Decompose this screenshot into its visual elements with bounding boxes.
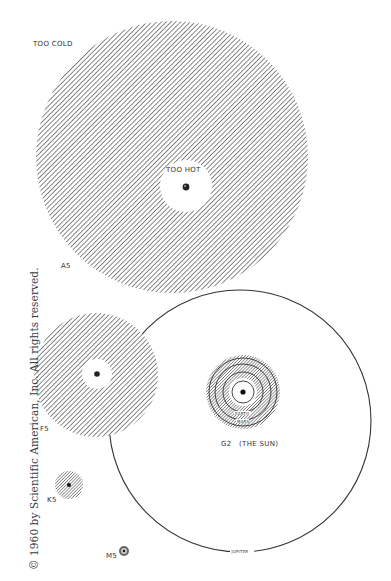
g2-sun-label: G2 (THE SUN) bbox=[221, 440, 278, 448]
jupiter-label: JUPITER bbox=[231, 549, 249, 554]
too-cold-label: TOO COLD bbox=[32, 40, 73, 48]
habitable-zones-diagram: JUPITER EARTH MARS TOO COLD T bbox=[0, 0, 391, 581]
m5-star-system bbox=[119, 546, 129, 556]
k5-star-system bbox=[55, 471, 83, 499]
m5-label: M5 bbox=[106, 552, 117, 560]
mars-label: MARS bbox=[237, 419, 250, 424]
m5-star-icon bbox=[123, 550, 125, 552]
a5-label: A5 bbox=[61, 262, 71, 270]
a5-star-icon bbox=[183, 184, 190, 191]
f5-label: F5 bbox=[40, 425, 49, 433]
earth-label: EARTH bbox=[235, 411, 249, 416]
k5-label: K5 bbox=[47, 496, 57, 504]
a5-habitable-zone bbox=[36, 21, 308, 293]
f5-star-icon bbox=[94, 371, 100, 377]
f5-star-system bbox=[34, 313, 158, 437]
k5-star-icon bbox=[67, 483, 71, 487]
sun-star-icon bbox=[240, 389, 245, 394]
too-hot-label: TOO HOT bbox=[165, 166, 201, 174]
copyright-notice: © 1960 by Scientific American, Inc. All … bbox=[28, 267, 40, 570]
a5-star-system bbox=[36, 21, 308, 293]
g2-sun-system: EARTH MARS bbox=[206, 355, 280, 429]
